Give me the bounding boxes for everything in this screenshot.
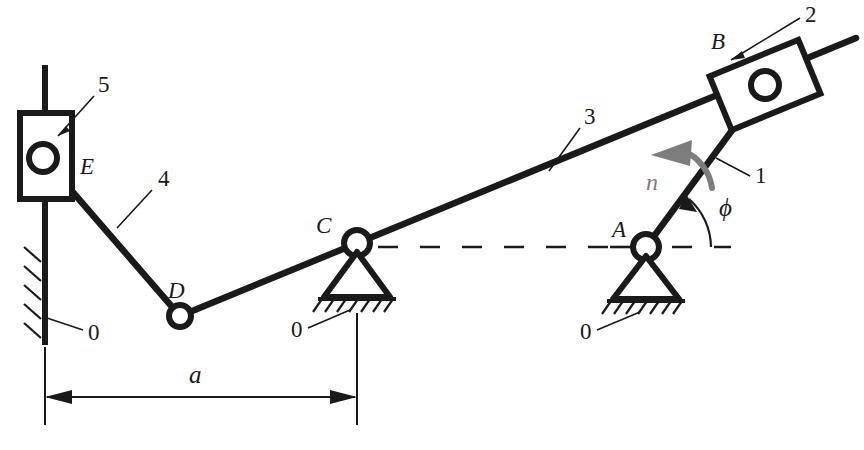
dimension-arrow-right: [330, 390, 357, 404]
link-1-label: 1: [755, 163, 767, 188]
ground-left-label: 0: [88, 320, 100, 345]
joint-a-support-triangle: [613, 256, 679, 299]
joint-e-pin: [29, 144, 57, 172]
mechanism-figure: 0 5 E 4 D: [0, 0, 864, 450]
link-3-leader: [549, 128, 580, 171]
joint-b-label: B: [711, 29, 725, 54]
link-1-leader: [716, 158, 750, 176]
joint-d-label: D: [167, 278, 185, 303]
joint-d-pin: [169, 305, 191, 327]
joint-c-label: C: [316, 213, 332, 238]
ground-left-leader: [44, 317, 83, 330]
rotation-n-arrowhead: [651, 140, 692, 166]
dimension-arrow-left: [45, 390, 72, 404]
link-2-label: 2: [805, 2, 817, 27]
rotation-n-label: n: [646, 169, 658, 195]
ground-a-label: 0: [580, 319, 592, 344]
dimension-a-label: a: [189, 361, 202, 388]
joint-c-support-triangle: [324, 252, 390, 297]
angle-phi-label: ϕ: [719, 194, 732, 221]
link-5-label: 5: [98, 72, 110, 97]
mechanism-diagram: 0 5 E 4 D: [0, 0, 864, 450]
guide-hatching: [24, 247, 41, 338]
joint-a-label: A: [610, 217, 627, 242]
link-4-label: 4: [158, 166, 170, 191]
joint-e-label: E: [79, 154, 94, 179]
joint-b-pin: [751, 71, 779, 99]
link-4-leader: [117, 190, 152, 228]
ground-c-label: 0: [291, 317, 303, 342]
ground-a-leader: [597, 312, 640, 330]
link-3-label: 3: [584, 104, 596, 129]
ground-c-leader: [308, 310, 350, 328]
